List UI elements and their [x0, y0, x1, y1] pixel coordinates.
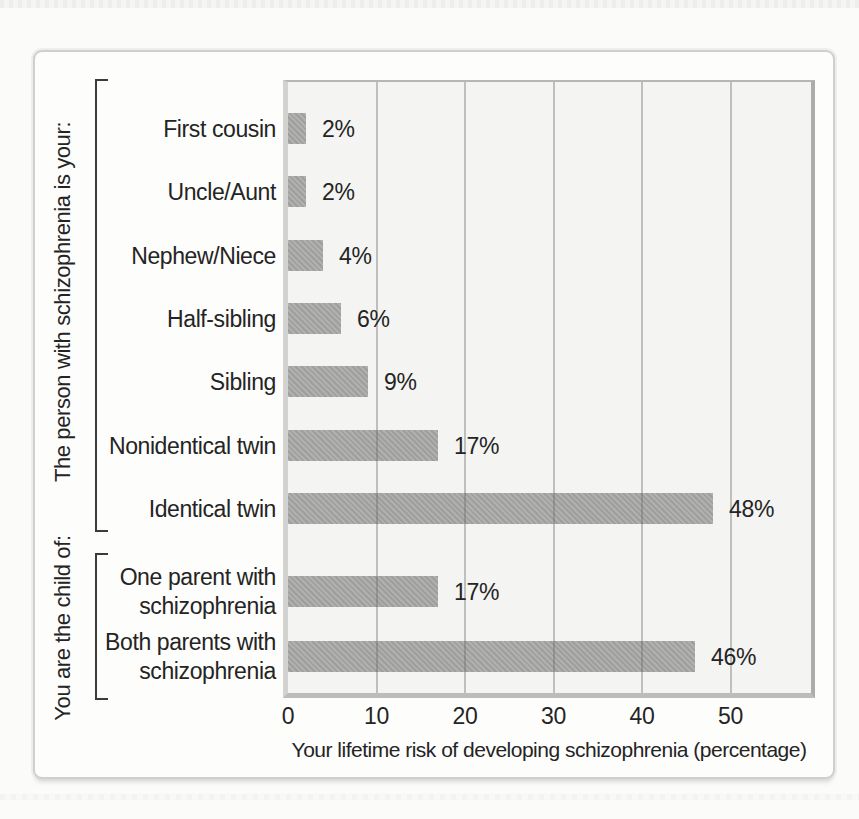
bar: [288, 176, 306, 207]
x-tick-label: 50: [718, 703, 743, 730]
bar: [288, 576, 438, 607]
x-axis-title: Your lifetime risk of developing schizop…: [292, 738, 807, 762]
plot-area: 2%2%4%6%9%17%48%17%46%: [283, 80, 815, 698]
bar: [288, 641, 695, 672]
bar-value-label: 4%: [339, 243, 372, 270]
x-tick-label: 10: [364, 703, 389, 730]
category-label: Half-sibling: [30, 305, 276, 334]
category-label: First cousin: [30, 115, 276, 144]
bar: [288, 430, 438, 461]
category-label: Nephew/Niece: [30, 242, 276, 271]
schizophrenia-risk-figure: The person with schizophrenia is your: Y…: [0, 0, 859, 819]
x-tick-label: 0: [282, 703, 295, 730]
x-tick-label: 20: [453, 703, 478, 730]
bar-value-label: 6%: [357, 306, 390, 333]
gridline: [730, 82, 732, 693]
gridline: [553, 82, 555, 693]
bar: [288, 113, 306, 144]
bar-value-label: 9%: [384, 369, 417, 396]
bar-value-label: 46%: [711, 644, 756, 671]
bar-value-label: 48%: [729, 496, 774, 523]
gridline: [641, 82, 643, 693]
x-tick-label: 40: [630, 703, 655, 730]
category-label: Sibling: [30, 368, 276, 397]
x-tick-label: 30: [541, 703, 566, 730]
bar: [288, 240, 323, 271]
scan-artifact-top: [0, 0, 859, 8]
bar: [288, 493, 713, 524]
category-label: Uncle/Aunt: [30, 178, 276, 207]
bar: [288, 303, 341, 334]
bar-value-label: 2%: [322, 179, 355, 206]
bar-value-label: 2%: [322, 116, 355, 143]
bar-value-label: 17%: [454, 579, 499, 606]
gridline: [376, 82, 378, 693]
category-label: One parent with schizophrenia: [30, 563, 276, 621]
bar-value-label: 17%: [454, 433, 499, 460]
category-label: Both parents with schizophrenia: [30, 628, 276, 686]
bar: [288, 366, 368, 397]
scan-artifact-bottom: [0, 794, 859, 800]
category-label: Nonidentical twin: [30, 432, 276, 461]
category-label: Identical twin: [30, 495, 276, 524]
